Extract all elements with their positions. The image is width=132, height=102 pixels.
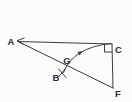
- label-point-B: B: [53, 72, 60, 83]
- compass-arc-arrowhead-icon: [78, 51, 83, 55]
- label-point-G: G: [63, 55, 70, 66]
- right-angle-mark-C: [105, 44, 113, 52]
- label-point-A: A: [8, 36, 15, 47]
- line-segment-CF: [112, 44, 113, 88]
- line-segment-AC: [18, 42, 112, 45]
- label-point-F: F: [115, 88, 121, 99]
- label-point-C: C: [115, 44, 122, 55]
- geometry-figure-canvas: A B C F G: [0, 0, 132, 102]
- geometry-construction-figure: A B C F G: [0, 0, 132, 102]
